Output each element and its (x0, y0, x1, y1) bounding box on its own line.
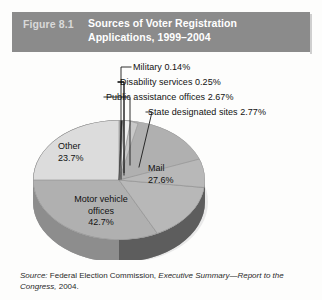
figure-number: Figure 8.1 (23, 18, 74, 30)
figure-header-band: Figure 8.1 Sources of Voter Registration… (12, 12, 310, 52)
slice-label-motor-vehicle-offices: Motor vehicle offices 42.7% (55, 194, 147, 229)
source-agency: Federal Election Commission, (50, 271, 156, 280)
callout-label-disability-services: Disability services 0.25% (120, 77, 221, 87)
slice-label-motor-name-line-2: offices (55, 206, 147, 218)
slice-label-motor-name-line-1: Motor vehicle (55, 194, 147, 206)
slice-label-other-value: 23.7% (58, 153, 84, 165)
figure-panel: Figure 8.1 Sources of Voter Registration… (0, 0, 322, 300)
callout-label-state-designated-sites: State designated sites 2.77% (148, 107, 266, 117)
slice-label-other: Other 23.7% (58, 141, 84, 164)
header-band-shadow (310, 14, 312, 54)
source-prefix: Source: (20, 271, 48, 280)
slice-label-motor-value: 42.7% (55, 217, 147, 229)
callout-label-public-assistance-offices: Public assistance offices 2.67% (106, 92, 233, 102)
figure-title-line-2: Applications, 1999–2004 (88, 31, 303, 45)
slice-label-other-name: Other (58, 141, 84, 153)
figure-title: Sources of Voter Registration Applicatio… (88, 17, 303, 44)
slice-label-mail: Mail 27.6% (148, 163, 174, 186)
figure-title-line-1: Sources of Voter Registration (88, 17, 237, 29)
slice-label-mail-value: 27.6% (148, 175, 174, 187)
source-year: 2004. (59, 282, 79, 291)
slice-label-mail-name: Mail (148, 163, 174, 175)
callout-label-military: Military 0.14% (133, 62, 190, 72)
source-note: Source: Federal Election Commission, Exe… (20, 270, 310, 292)
